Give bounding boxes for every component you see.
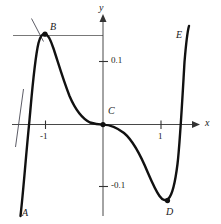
x-tick-label-1: 1	[158, 132, 163, 141]
point-dot-b	[42, 32, 47, 37]
point-label-a: A	[22, 208, 28, 218]
point-label-c: C	[108, 106, 115, 116]
function-graph-figure: B C D A E y x -1 1 0.1 -0.1	[0, 0, 221, 224]
x-tick-label-minus-1: -1	[40, 132, 48, 141]
y-axis-arrow	[100, 14, 107, 22]
tangent-line-near-a	[16, 89, 24, 147]
point-dot-d	[165, 198, 170, 203]
point-label-b: B	[50, 22, 56, 32]
point-label-e: E	[176, 30, 182, 40]
y-axis-label: y	[99, 3, 103, 13]
y-tick-label-minus-0-1: -0.1	[111, 181, 125, 190]
point-dot-c	[100, 122, 105, 127]
tangent-line-at-b	[32, 19, 44, 42]
point-label-d: D	[166, 207, 173, 217]
x-axis-label: x	[205, 118, 209, 128]
y-tick-label-0-1: 0.1	[111, 56, 122, 65]
x-axis-arrow	[192, 121, 200, 128]
